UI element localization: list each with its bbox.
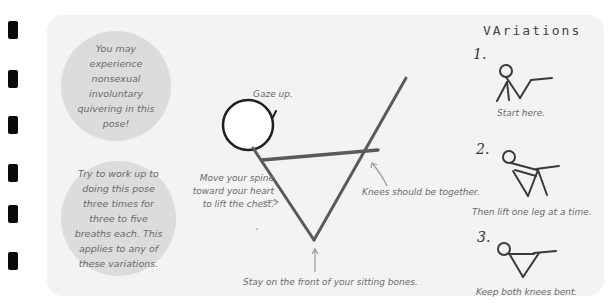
variation-1-caption: Start here. xyxy=(497,107,545,120)
variation-3-figure xyxy=(498,243,556,277)
variation-2-caption: Then lift one leg at a time. xyxy=(472,206,592,219)
variation-3-caption: Keep both knees bent. xyxy=(476,286,577,299)
variation-1-figure xyxy=(497,65,552,101)
variation-2-figure xyxy=(503,151,559,196)
variation-sketches xyxy=(0,0,615,306)
